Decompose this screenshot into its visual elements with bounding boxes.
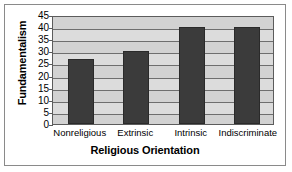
y-tick-label: 15: [29, 84, 49, 94]
y-tick-label: 5: [29, 108, 49, 118]
x-tick-label: Nonreligious: [52, 127, 108, 139]
y-tick-mark: [49, 125, 53, 126]
x-tick-label: Intrinsic: [163, 127, 219, 139]
y-tick-label: 0: [29, 120, 49, 130]
bar-chart-figure: Fundamentalism 051015202530354045 Nonrel…: [4, 4, 286, 166]
x-axis-title: Religious Orientation: [5, 144, 285, 156]
y-tick-label: 45: [29, 11, 49, 21]
y-tick-label: 30: [29, 47, 49, 57]
x-tick-label: Extrinsic: [108, 127, 164, 139]
y-tick-label: 20: [29, 72, 49, 82]
plot-area: [52, 16, 274, 125]
y-tick-label: 10: [29, 96, 49, 106]
bar: [234, 27, 260, 124]
y-tick-label: 40: [29, 23, 49, 33]
y-tick-label: 35: [29, 35, 49, 45]
y-tick-label: 25: [29, 59, 49, 69]
y-axis-tick-labels: 051015202530354045: [26, 16, 49, 125]
bar: [68, 59, 94, 124]
bar: [123, 51, 149, 124]
x-axis-tick-labels: NonreligiousExtrinsicIntrinsicIndiscrimi…: [52, 127, 274, 141]
x-tick-label: Indiscriminate: [219, 127, 275, 139]
bar: [179, 27, 205, 124]
